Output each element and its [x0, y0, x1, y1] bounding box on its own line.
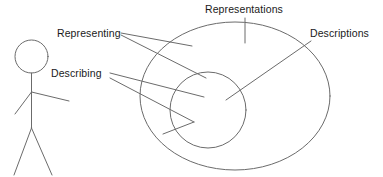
leader-line-descriptions	[226, 41, 311, 100]
actor-right-leg-line	[32, 128, 53, 175]
leader-line-representing-inner	[121, 35, 206, 78]
actor-right-arm-line	[32, 92, 70, 101]
label-descriptions: Descriptions	[310, 27, 369, 39]
leader-line-describing-arrow	[163, 122, 194, 134]
actor-head-icon	[15, 40, 48, 73]
diagram-canvas: Representing Describing Representations …	[0, 0, 383, 177]
inner-circle-descriptions	[170, 72, 246, 148]
actor-left-leg-line	[14, 128, 32, 175]
outer-ellipse-representations	[140, 22, 330, 170]
stick-figure-actor	[14, 40, 69, 175]
label-representations: Representations	[205, 3, 283, 15]
label-describing: Describing	[51, 67, 102, 79]
leader-line-describing-lower	[110, 78, 194, 122]
label-representing: Representing	[57, 27, 121, 39]
actor-left-arm-line	[15, 92, 32, 114]
